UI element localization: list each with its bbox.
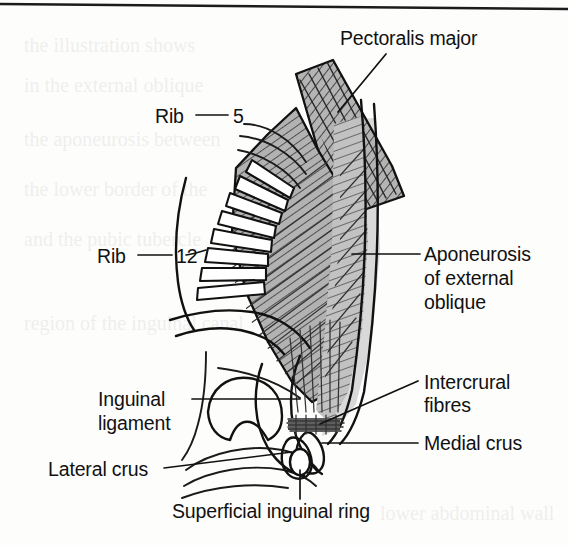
label-lateral-crus: Lateral crus bbox=[48, 458, 148, 480]
label-medial-crus: Medial crus bbox=[424, 432, 522, 454]
label-superficial-inguinal-ring: Superficial inguinal ring bbox=[172, 500, 370, 522]
label-intercrural-line1: Intercrural bbox=[424, 371, 510, 393]
label-inguinal-line2: ligament bbox=[98, 412, 171, 434]
svg-text:the aponeurosis between: the aponeurosis between bbox=[24, 128, 221, 151]
label-aponeurosis-line1: Aponeurosis bbox=[424, 243, 531, 265]
label-rib-lower-word: Rib bbox=[97, 245, 126, 267]
label-pectoralis-major: Pectoralis major bbox=[340, 27, 478, 49]
svg-text:in the external oblique: in the external oblique bbox=[24, 74, 204, 97]
svg-text:the lower border of the: the lower border of the bbox=[24, 178, 207, 200]
label-intercrural-line2: fibres bbox=[424, 394, 471, 416]
svg-text:the illustration shows: the illustration shows bbox=[24, 34, 195, 56]
svg-text:lower abdominal wall: lower abdominal wall bbox=[380, 502, 555, 524]
leader-lateral-crus bbox=[164, 452, 292, 468]
label-rib-upper-word: Rib bbox=[155, 105, 184, 127]
svg-text:region of the inguinal canal: region of the inguinal canal bbox=[24, 312, 244, 335]
label-inguinal-line1: Inguinal bbox=[98, 388, 165, 410]
label-aponeurosis-line3: oblique bbox=[424, 291, 486, 313]
anatomy-svg: the illustration shows in the external o… bbox=[0, 0, 568, 545]
page-top-rule bbox=[0, 4, 568, 9]
label-rib-lower-number: 12 bbox=[176, 245, 197, 267]
anatomy-figure: the illustration shows in the external o… bbox=[0, 0, 568, 545]
label-rib-upper-number: 5 bbox=[233, 105, 244, 127]
label-aponeurosis-line2: of external bbox=[424, 267, 513, 289]
